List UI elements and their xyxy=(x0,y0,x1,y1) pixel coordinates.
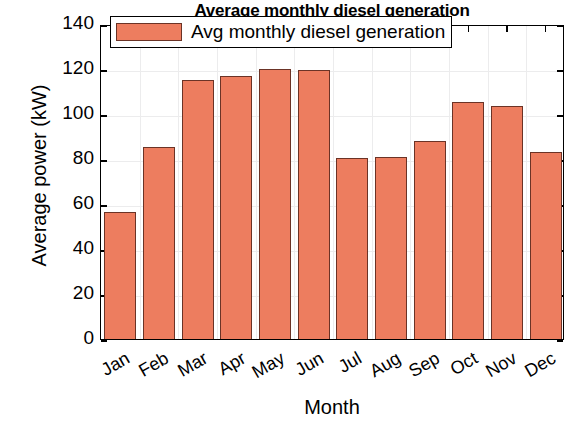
chart-legend: Avg monthly diesel generation xyxy=(110,16,452,48)
chart-figure: Average monthly diesel generation 020406… xyxy=(0,0,580,425)
y-axis-tick-label: 40 xyxy=(0,237,104,259)
bar-jul[interactable] xyxy=(336,158,368,339)
y-axis-tick-label: 120 xyxy=(0,57,104,79)
bar-jun[interactable] xyxy=(298,70,330,339)
plot-area xyxy=(100,25,564,340)
y-axis-tick-label: 0 xyxy=(0,327,104,349)
bar-feb[interactable] xyxy=(143,147,175,339)
y-axis-tick-label: 140 xyxy=(0,12,104,34)
y-axis-tick-label: 80 xyxy=(0,147,104,169)
x-axis-tick-labels: JanFebMarAprMayJunJulAugSepOctNovDec xyxy=(100,340,564,395)
bar-aug[interactable] xyxy=(375,157,407,339)
bar-dec[interactable] xyxy=(530,152,562,339)
bar-jan[interactable] xyxy=(104,212,136,339)
y-axis-title: Average power (kW) xyxy=(28,26,51,326)
legend-swatch-icon xyxy=(116,23,182,41)
bar-apr[interactable] xyxy=(220,76,252,339)
y-axis-tick-label: 60 xyxy=(0,192,104,214)
bar-oct[interactable] xyxy=(452,102,484,339)
bar-nov[interactable] xyxy=(491,106,523,339)
y-axis-tick-label: 20 xyxy=(0,282,104,304)
bar-mar[interactable] xyxy=(182,80,214,339)
y-axis-tick-label: 100 xyxy=(0,102,104,124)
legend-label: Avg monthly diesel generation xyxy=(191,21,445,43)
bar-sep[interactable] xyxy=(414,141,446,339)
x-axis-title: Month xyxy=(100,396,564,419)
bar-series xyxy=(101,26,563,339)
bar-may[interactable] xyxy=(259,69,291,339)
x-axis-tick-label: Dec xyxy=(509,348,559,389)
